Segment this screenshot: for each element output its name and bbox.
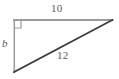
vertical-leg-label: b (2, 38, 8, 49)
geometry-figure: 10 12 b (0, 0, 119, 79)
hypotenuse-line (14, 20, 113, 72)
hypotenuse-label: 12 (57, 50, 68, 61)
top-leg-label: 10 (51, 3, 62, 14)
